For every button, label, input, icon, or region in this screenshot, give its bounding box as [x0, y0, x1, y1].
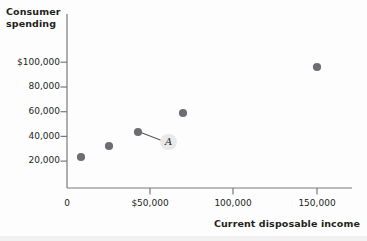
x-tick-label-0: 0	[37, 198, 97, 208]
y-axis-ticks	[61, 62, 68, 161]
y-axis-title: Consumer spending	[6, 6, 61, 29]
y-tick-label-20000: 20,000	[4, 155, 60, 165]
y-tick-label-100000: $100,000	[4, 57, 60, 67]
x-tick-label-150000: 150,000	[287, 198, 347, 208]
y-tick-label-80000: 80,000	[4, 81, 60, 91]
data-point[interactable]	[105, 142, 113, 150]
chart-figure: A Consumer spending Current disposable i…	[0, 0, 367, 241]
x-axis-title: Current disposable income	[0, 218, 360, 230]
y-tick-label-60000: 60,000	[4, 106, 60, 116]
footer-strip	[0, 236, 367, 241]
x-axis-ticks	[150, 188, 317, 195]
x-tick-label-100000: 100,000	[203, 198, 263, 208]
annotation-label-a: A	[160, 134, 177, 150]
y-tick-label-40000: 40,000	[4, 131, 60, 141]
x-tick-label-50000: $50,000	[120, 198, 180, 208]
data-points	[77, 63, 321, 161]
data-point[interactable]	[179, 109, 187, 117]
data-point[interactable]	[134, 128, 142, 136]
data-point[interactable]	[77, 153, 85, 161]
data-point[interactable]	[313, 63, 321, 71]
